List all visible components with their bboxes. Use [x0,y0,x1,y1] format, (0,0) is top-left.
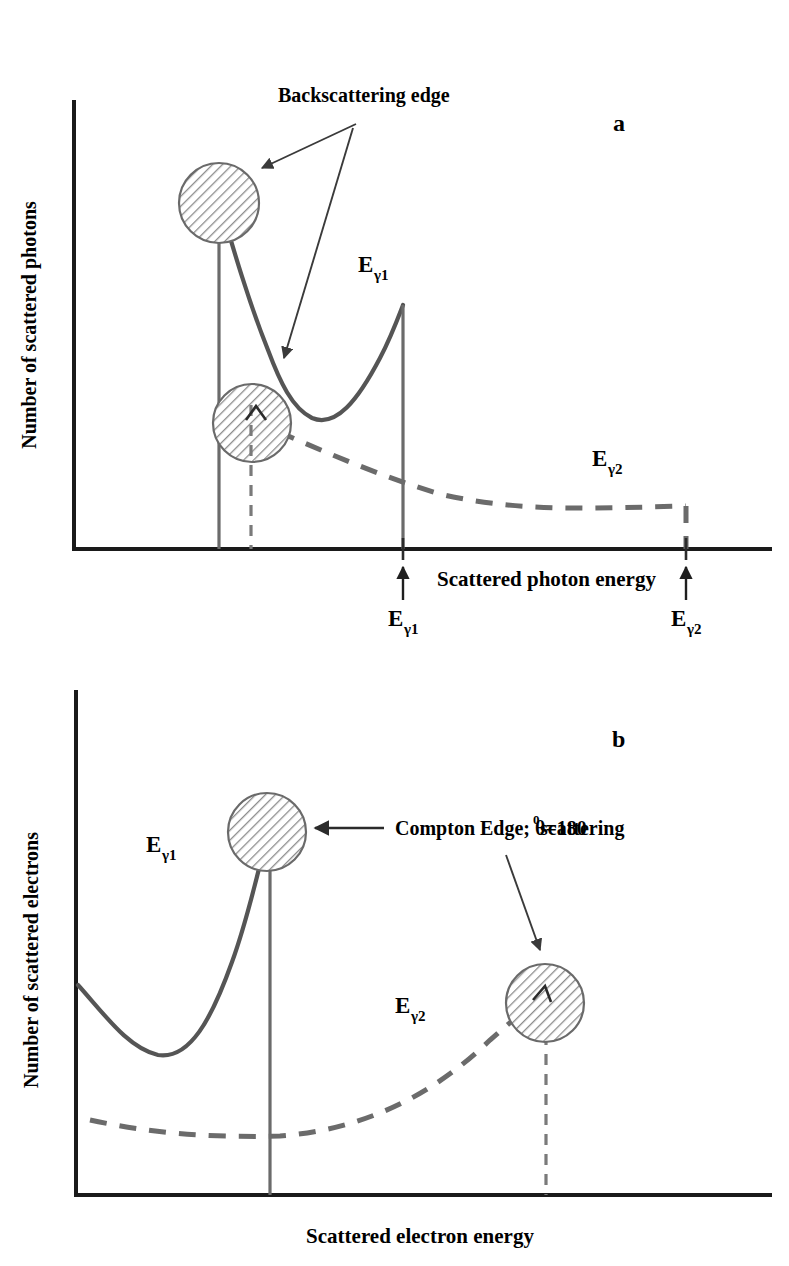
panel-b-eg1-label-sub: γ1 [161,847,177,863]
panel-b-marker: b [612,726,625,752]
panel-b-compton-edge-highlight [228,793,306,871]
compton-scattering-figure: Number of scattered photons a Backscatte… [0,0,789,1266]
panel-a-eg2-label-main: E [592,446,607,471]
panel-b-callout-leader-right [506,855,540,950]
panel-a-marker: a [613,110,625,136]
panel-b-eg2-continuum [90,994,546,1136]
panel-b-x-axis-label: Scattered electron energy [306,1224,534,1248]
panel-a-tick-eg2-label-sub: γ2 [686,621,702,637]
panel-a-tick-eg2-label-main: E [671,606,686,631]
panel-a-eg2-label-sub: γ2 [607,461,623,477]
panel-a-tick-eg1-label-sub: γ1 [403,621,419,637]
panel-a-y-axis-label: Number of scattered photons [18,201,41,449]
panel-b: Number of scattered electrons b Compton … [20,690,772,1248]
panel-b-eg1-label: E γ1 [146,832,177,863]
panel-a-eg1-label-sub: γ1 [373,267,389,283]
panel-a-eg1-label-main: E [358,252,373,277]
panel-a-callout-leader-lower [284,128,353,358]
panel-a-eg2-continuum [223,408,686,508]
panel-b-compton-callout: Compton Edge; θ=180 0 scattering [395,812,624,840]
panel-a-eg2-label: E γ2 [592,446,623,477]
panel-b-eg2-label-sub: γ2 [410,1008,426,1024]
panel-a-callout-leader-upper [262,124,356,168]
panel-b-eg2-label-main: E [395,993,410,1018]
panel-b-eg2-label: E γ2 [395,993,426,1024]
panel-b-compton-callout-tail: scattering [540,817,624,840]
panel-b-eg2-edge-highlight [506,964,584,1042]
panel-b-y-axis-label: Number of scattered electrons [20,832,42,1088]
panel-a-tick-eg1-label: E γ1 [388,606,419,637]
panel-a: Number of scattered photons a Backscatte… [18,84,772,637]
panel-b-compton-callout-sup: 0 [533,812,540,827]
panel-a-x-axis-label: Scattered photon energy [437,567,656,591]
panel-a-tick-eg1-label-main: E [388,606,403,631]
figure-svg: Number of scattered photons a Backscatte… [0,0,789,1266]
panel-a-eg1-label: E γ1 [358,252,389,283]
panel-a-backscatter-callout: Backscattering edge [278,84,450,107]
panel-a-backscatter-highlight [179,163,259,243]
panel-b-eg1-curve [78,836,267,1055]
panel-a-tick-eg2-label: E γ2 [671,606,702,637]
panel-b-eg1-label-main: E [146,832,161,857]
